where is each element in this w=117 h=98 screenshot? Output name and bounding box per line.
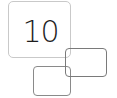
number-label: 10 <box>9 2 72 59</box>
overlapping-rectangle-right-icon <box>65 48 107 77</box>
number-tile: 10 <box>8 1 71 58</box>
